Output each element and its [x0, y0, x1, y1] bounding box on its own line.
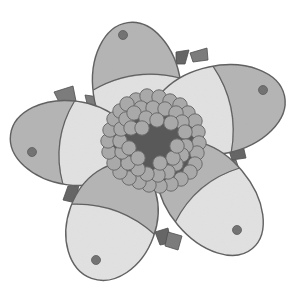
petal-dot: [92, 256, 101, 265]
petal-dot: [119, 31, 128, 40]
stamen: [178, 125, 192, 139]
stamen: [135, 121, 149, 135]
stamen: [153, 156, 167, 170]
stamen: [164, 116, 178, 130]
stamen: [150, 113, 164, 127]
stamen: [131, 151, 145, 165]
flower-illustration: [0, 0, 294, 294]
petal-dot: [233, 226, 242, 235]
petal-dot: [259, 86, 268, 95]
stamen: [170, 139, 184, 153]
petal-dot: [28, 148, 37, 157]
